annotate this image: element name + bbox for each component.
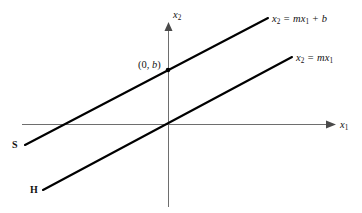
line-graph-figure: x2 x1 x2 = mx1 + b x2 = mx1 (0, b) S H xyxy=(0,0,362,213)
x-axis-label-sub: 1 xyxy=(345,124,349,132)
line-s-equation-label: x2 = mx1 + b xyxy=(272,14,327,26)
line-h-equation-label: x2 = mx1 xyxy=(296,53,333,65)
y-intercept-label-close: ) xyxy=(157,59,161,70)
x-axis-label: x1 xyxy=(340,120,348,132)
line-s-eq-tail: + b xyxy=(312,13,327,24)
x-axis-arrowhead xyxy=(326,121,336,129)
y-axis-label-sub: 2 xyxy=(178,14,182,22)
line-h-segment xyxy=(43,57,292,190)
line-h-eq-rhs-sub: 1 xyxy=(329,57,333,65)
y-intercept-marker xyxy=(166,68,171,73)
y-axis-arrowhead xyxy=(165,22,173,31)
y-intercept-label-open: (0, xyxy=(138,59,152,70)
line-s-eq-rhs-sub: 1 xyxy=(305,18,309,26)
line-s-eq-lhs-sub: 2 xyxy=(277,18,281,26)
line-s-endpoint-label: S xyxy=(12,140,18,150)
y-intercept-label: (0, b) xyxy=(138,60,161,71)
graph-canvas xyxy=(0,0,362,213)
line-s-segment xyxy=(25,18,268,145)
y-axis-label: x2 xyxy=(173,10,181,22)
line-s-eq-rhs: = mx xyxy=(283,13,305,24)
line-h-eq-rhs: = mx xyxy=(307,52,329,63)
line-h-eq-lhs-sub: 2 xyxy=(301,57,305,65)
line-h-endpoint-label: H xyxy=(30,185,38,195)
